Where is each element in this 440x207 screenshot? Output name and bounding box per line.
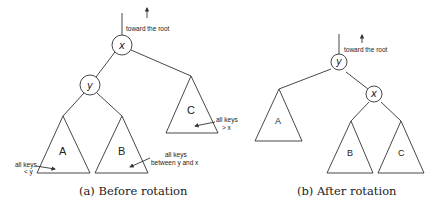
- root-note: toward the root: [126, 25, 170, 32]
- panel-after-rotation: toward the root A B C y x (b) After rota…: [255, 34, 424, 198]
- subtree-c-label: C: [187, 104, 195, 116]
- subtree-c-label: C: [398, 148, 405, 158]
- annotation-a-line2: < y: [24, 168, 34, 176]
- subtree-b-label: B: [347, 148, 353, 158]
- subtree-c: [378, 121, 424, 173]
- caption-before: (a) Before rotation: [79, 184, 188, 198]
- panel-before-rotation: toward the root A B C x y all keys < y a…: [15, 8, 238, 198]
- edge-x-b: [351, 102, 369, 121]
- rotation-diagram: toward the root A B C x y all keys < y a…: [0, 0, 440, 207]
- node-x-label: x: [118, 40, 125, 51]
- annotation-b-line1: all keys: [165, 151, 187, 159]
- subtree-a-label: A: [59, 145, 67, 157]
- edge-y-a: [63, 93, 84, 116]
- subtree-a: [255, 89, 302, 141]
- node-y-label: y: [335, 56, 343, 67]
- edge-x-c: [131, 50, 191, 76]
- edge-y-a: [279, 69, 331, 89]
- caption-after: (b) After rotation: [297, 184, 397, 198]
- root-note: toward the root: [344, 46, 388, 53]
- annotation-c-line2: > x: [222, 124, 232, 131]
- subtree-b: [327, 121, 373, 173]
- node-y-label: y: [86, 80, 94, 91]
- edge-x-c: [381, 102, 401, 121]
- node-x-label: x: [370, 88, 377, 99]
- subtree-a-label: A: [275, 116, 281, 126]
- annotation-b-line2: between y and x: [151, 159, 199, 167]
- subtree-b-label: B: [118, 145, 125, 157]
- edge-y-b: [97, 93, 122, 116]
- annotation-c-line1: all keys: [216, 116, 238, 124]
- edge-x-y: [96, 52, 115, 77]
- edge-y-x: [346, 72, 368, 89]
